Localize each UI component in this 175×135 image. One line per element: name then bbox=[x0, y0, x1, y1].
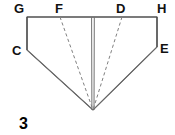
fold-line-F-apex-dashed bbox=[60, 17, 93, 110]
figure-number-label: 3 bbox=[19, 116, 28, 132]
vertex-label-E: E bbox=[160, 42, 169, 55]
vertex-label-C: C bbox=[12, 44, 21, 57]
figure-3-diagram: G F D H C E 3 bbox=[0, 0, 175, 135]
vertex-label-F: F bbox=[55, 2, 63, 15]
edge-lower-left-C-apex bbox=[27, 50, 93, 110]
vertex-label-D: D bbox=[116, 2, 125, 15]
vertex-label-H: H bbox=[157, 2, 166, 15]
vertex-label-G: G bbox=[14, 2, 24, 15]
